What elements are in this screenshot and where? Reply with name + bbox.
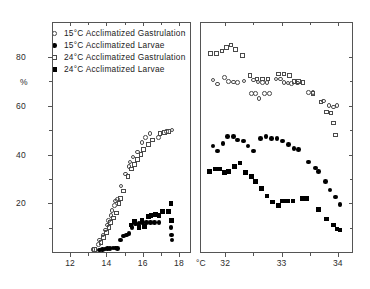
data-point-open-circle-marker [131, 155, 136, 160]
y-tick-label: 20 [16, 198, 26, 208]
x-major-tick [179, 252, 180, 257]
data-point-open-square-marker [132, 162, 137, 167]
data-point-open-circle-marker [267, 91, 272, 96]
data-point-open-square-marker [101, 235, 106, 240]
data-point-open-square-marker [282, 72, 287, 77]
figure-container: % °C · 15°C Acclimatized Gastrulation15°… [0, 0, 370, 289]
data-point-open-circle-marker [335, 103, 340, 108]
panel-1-plot-area [201, 23, 352, 252]
data-point-filled-circle-marker [313, 166, 318, 171]
data-point-open-square-marker [141, 147, 146, 152]
data-point-open-square-marker [111, 216, 116, 221]
x-tick-label: 33 [277, 258, 287, 268]
data-point-open-square-marker [104, 230, 109, 235]
data-point-filled-circle-marker [169, 225, 174, 230]
data-point-open-square-marker [266, 77, 271, 82]
data-point-filled-square-marker [285, 199, 290, 204]
panel-0-plot-area [53, 23, 190, 252]
data-point-filled-square-marker [142, 224, 147, 229]
data-point-filled-square-marker [207, 169, 212, 174]
data-point-open-square-marker [240, 53, 245, 58]
data-point-open-square-marker [301, 80, 306, 85]
x-tick-label: 32 [220, 258, 230, 268]
data-point-open-square-marker [166, 129, 171, 134]
data-point-filled-circle-marker [275, 136, 280, 141]
y-tick-label: 60 [16, 101, 26, 111]
data-point-filled-square-marker [226, 169, 231, 174]
data-point-filled-circle-marker [170, 238, 175, 243]
data-point-open-square-marker [311, 91, 316, 96]
data-point-filled-circle-marker [241, 139, 246, 144]
data-point-filled-square-marker [137, 225, 142, 230]
x-major-tick [338, 252, 339, 257]
x-axis-unit-label: °C [196, 258, 206, 268]
data-point-open-square-marker [248, 73, 253, 78]
data-point-filled-circle-marker [258, 136, 263, 141]
data-point-open-square-marker [287, 73, 292, 78]
data-point-filled-square-marker [160, 209, 165, 214]
x-tick-label: 18 [174, 258, 184, 268]
y-tick-label: 40 [16, 150, 26, 160]
data-point-filled-square-marker [140, 218, 145, 223]
data-point-filled-circle-marker [215, 149, 220, 154]
data-point-open-square-marker [276, 72, 281, 77]
data-point-filled-square-marker [270, 200, 275, 205]
data-point-filled-square-marker [291, 199, 296, 204]
data-point-open-square-marker [135, 157, 140, 162]
data-point-filled-circle-marker [115, 246, 120, 251]
x-major-tick [143, 252, 144, 257]
data-point-open-square-marker [333, 133, 338, 138]
data-point-filled-circle-marker [211, 144, 216, 149]
data-point-filled-square-marker [132, 219, 137, 224]
data-point-open-square-marker [319, 100, 324, 105]
data-point-filled-square-marker [243, 170, 248, 175]
data-point-open-square-marker [214, 51, 219, 56]
data-point-open-circle-marker [215, 82, 220, 87]
data-point-filled-circle-marker [306, 160, 311, 165]
x-minor-tick [310, 252, 311, 256]
data-point-filled-circle-marker [296, 147, 301, 152]
y-axis-label: % [20, 77, 28, 87]
panel-0-right-spine [190, 22, 191, 253]
data-point-filled-circle-marker [251, 149, 256, 154]
data-point-filled-square-marker [169, 218, 174, 223]
x-tick-label: 12 [65, 258, 75, 268]
data-point-filled-square-marker [338, 228, 343, 233]
data-point-filled-circle-marker [118, 238, 123, 243]
data-point-filled-circle-marker [333, 195, 338, 200]
data-point-filled-square-marker [166, 209, 171, 214]
data-point-filled-square-marker [265, 194, 270, 199]
data-point-filled-circle-marker [280, 139, 285, 144]
data-point-open-square-marker [150, 138, 155, 143]
data-point-filled-square-marker [253, 179, 258, 184]
panel-1-bottom-spine [200, 252, 353, 253]
data-point-open-square-marker [121, 189, 126, 194]
data-point-filled-square-marker [316, 207, 321, 212]
data-point-open-square-marker [139, 152, 144, 157]
data-point-filled-circle-marker [157, 220, 162, 225]
x-major-tick [70, 252, 71, 257]
panel-0-bottom-spine [52, 252, 191, 253]
data-point-open-square-marker [233, 47, 238, 52]
x-minor-tick [253, 252, 254, 256]
data-point-filled-circle-marker [323, 179, 328, 184]
data-point-filled-circle-marker [269, 136, 274, 141]
data-point-open-square-marker [329, 111, 334, 116]
x-minor-tick [88, 252, 89, 256]
data-point-filled-circle-marker [264, 134, 269, 139]
x-minor-tick [125, 252, 126, 256]
data-point-open-circle-marker [143, 135, 148, 140]
data-point-open-circle-marker [242, 79, 247, 84]
data-point-open-circle-marker [148, 131, 153, 136]
data-point-filled-circle-marker [246, 144, 251, 149]
data-point-open-square-marker [255, 77, 260, 82]
data-point-filled-square-marker [276, 203, 281, 208]
x-major-tick [225, 252, 226, 257]
data-point-open-circle-marker [235, 80, 240, 85]
data-point-open-square-marker [208, 51, 213, 56]
data-point-filled-circle-marker [338, 202, 343, 207]
data-point-filled-circle-marker [225, 134, 230, 139]
x-major-tick [106, 252, 107, 257]
data-point-open-square-marker [108, 220, 113, 225]
data-point-open-circle-marker [257, 96, 262, 101]
